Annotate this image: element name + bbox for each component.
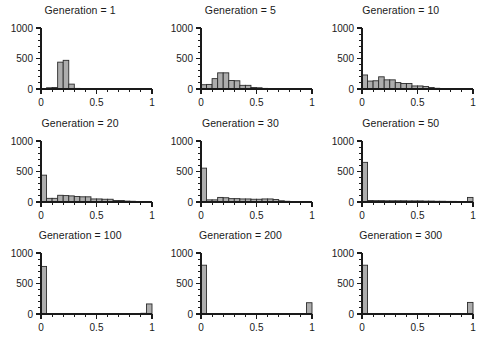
histogram-bar (467, 303, 473, 315)
histogram-bar (201, 85, 207, 89)
bar-series (362, 162, 473, 202)
x-tick-label: 0.5 (250, 97, 264, 108)
bar-series (201, 168, 301, 202)
x-tick-label: 0 (199, 210, 205, 221)
x-tick-label: 0.5 (250, 210, 264, 221)
y-tick-label: 500 (16, 278, 33, 289)
y-tick-label: 1000 (331, 248, 354, 259)
y-tick-label: 500 (177, 166, 194, 177)
y-tick-label: 0 (348, 309, 354, 320)
plot-area: 0500100000.51 (0, 225, 160, 338)
histogram-bar (85, 196, 91, 201)
y-tick-label: 1000 (171, 135, 194, 146)
histogram-panel: Generation = 10500100000.51 (0, 0, 160, 113)
bar-series (47, 60, 86, 89)
plot-area: 0500100000.51 (160, 113, 320, 226)
bar-series (201, 265, 312, 314)
histogram-panel: Generation = 2000500100000.51 (160, 225, 320, 338)
histogram-bar (207, 84, 213, 89)
x-tick-label: 0.5 (250, 322, 264, 333)
x-tick-label: 0.5 (410, 97, 424, 108)
x-tick-label: 0 (38, 322, 44, 333)
x-tick-label: 1 (470, 210, 476, 221)
plot-area: 0500100000.51 (0, 0, 160, 113)
y-tick-label: 0 (188, 196, 194, 207)
x-tick-label: 0 (359, 322, 365, 333)
y-tick-label: 1000 (331, 23, 354, 34)
histogram-panel: Generation = 1000500100000.51 (0, 225, 160, 338)
y-tick-label: 500 (337, 278, 354, 289)
y-tick-label: 0 (188, 84, 194, 95)
histogram-bar (63, 60, 69, 89)
histogram-bar (201, 168, 207, 202)
y-tick-label: 0 (348, 84, 354, 95)
x-tick-label: 1 (310, 322, 316, 333)
histogram-bar (362, 75, 368, 89)
y-tick-label: 500 (177, 278, 194, 289)
y-tick-label: 1000 (171, 23, 194, 34)
histogram-panel: Generation = 500500100000.51 (321, 113, 481, 226)
plot-area: 0500100000.51 (321, 0, 481, 113)
x-tick-label: 1 (149, 97, 155, 108)
y-tick-label: 0 (188, 309, 194, 320)
histogram-panel: Generation = 50500100000.51 (160, 0, 320, 113)
x-tick-label: 0.5 (90, 97, 104, 108)
histogram-bar (378, 77, 384, 89)
histogram-bar (63, 195, 69, 201)
histogram-bar (80, 196, 86, 201)
histogram-panel: Generation = 200500100000.51 (0, 113, 160, 226)
histogram-bar (146, 304, 152, 314)
y-tick-label: 1000 (11, 135, 34, 146)
histogram-bar (307, 303, 313, 314)
x-tick-label: 0.5 (410, 322, 424, 333)
histogram-bar (406, 84, 412, 89)
histogram-bar (229, 80, 235, 89)
y-tick-label: 1000 (171, 248, 194, 259)
x-tick-label: 0 (38, 97, 44, 108)
histogram-bar (400, 84, 406, 89)
x-tick-label: 0 (199, 322, 205, 333)
x-tick-label: 1 (149, 210, 155, 221)
bar-series (41, 267, 152, 315)
x-tick-label: 1 (470, 322, 476, 333)
y-tick-label: 0 (27, 84, 33, 95)
histogram-bar (223, 197, 229, 201)
y-tick-label: 1000 (331, 135, 354, 146)
histogram-figure: Generation = 10500100000.51Generation = … (0, 0, 481, 338)
plot-area: 0500100000.51 (321, 113, 481, 226)
y-tick-label: 1000 (11, 23, 34, 34)
bar-series (201, 73, 273, 89)
bar-series (362, 75, 445, 89)
y-tick-label: 0 (27, 196, 33, 207)
histogram-bar (362, 265, 368, 314)
histogram-bar (235, 81, 241, 89)
plot-area: 0500100000.51 (0, 113, 160, 226)
histogram-bar (384, 80, 390, 89)
y-tick-label: 1000 (11, 248, 34, 259)
histogram-panel: Generation = 300500100000.51 (160, 113, 320, 226)
histogram-bar (69, 84, 75, 89)
x-tick-label: 1 (149, 322, 155, 333)
histogram-bar (218, 197, 224, 202)
x-tick-label: 0 (38, 210, 44, 221)
x-tick-label: 0.5 (90, 210, 104, 221)
y-tick-label: 500 (337, 166, 354, 177)
histogram-bar (41, 267, 47, 315)
histogram-bar (201, 265, 207, 314)
x-tick-label: 0 (359, 97, 365, 108)
histogram-bar (395, 83, 401, 89)
x-tick-label: 0 (199, 97, 205, 108)
histogram-panel: Generation = 100500100000.51 (321, 0, 481, 113)
histogram-bar (74, 196, 80, 201)
histogram-bar (58, 195, 64, 202)
y-tick-label: 0 (27, 309, 33, 320)
histogram-bar (367, 81, 373, 89)
x-tick-label: 1 (470, 97, 476, 108)
x-tick-label: 0.5 (90, 322, 104, 333)
y-tick-label: 500 (177, 53, 194, 64)
histogram-bar (373, 81, 379, 89)
histogram-bar (212, 79, 218, 89)
histogram-bar (69, 195, 75, 201)
x-tick-label: 0 (359, 210, 365, 221)
histogram-bar (218, 73, 224, 89)
